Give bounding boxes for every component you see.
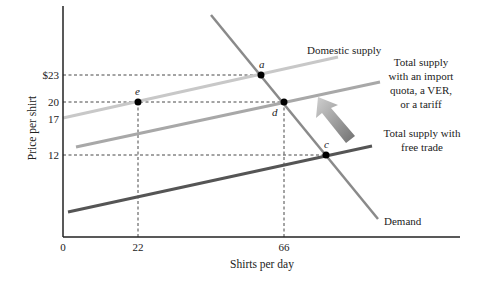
restricted-supply-label: Total supply with an import quota, a VER… [389,56,454,110]
demand-label: Demand [384,215,422,227]
guide-lines [63,75,326,237]
y-tick-12: 12 [48,149,59,161]
svg-text:Total supply: Total supply [394,56,449,68]
y-tick-20: 20 [48,96,60,108]
y-tick-17: 17 [48,113,60,125]
x-tick-0: 0 [60,241,66,253]
domestic-supply-label: Domestic supply [307,44,382,56]
point-e-marker [135,99,142,106]
svg-text:quota, a VER,: quota, a VER, [390,84,452,96]
y-axis-title: Price per shirt [26,95,39,160]
free-trade-supply-label: Total supply with free trade [384,127,461,153]
svg-text:Total supply with: Total supply with [384,127,461,139]
domestic-supply-line [63,57,338,118]
point-d-label: d [272,106,278,118]
supply-shift-arrow-icon [316,97,355,143]
point-d-marker [281,99,288,106]
point-c-marker [323,152,330,159]
x-tick-22: 22 [133,241,144,253]
axes [63,6,460,237]
point-a-label: a [259,58,265,70]
point-a-marker [258,72,265,79]
supply-demand-chart: a e d c $23 20 17 12 0 22 66 Shirts per … [0,0,481,287]
svg-text:free trade: free trade [401,141,443,153]
point-e-label: e [135,85,140,97]
x-tick-66: 66 [279,241,291,253]
x-axis-title: Shirts per day [230,258,294,271]
svg-text:or a tariff: or a tariff [400,98,442,110]
point-c-label: c [324,138,329,150]
y-tick-23: $23 [43,69,60,81]
svg-text:with an import: with an import [389,70,454,82]
